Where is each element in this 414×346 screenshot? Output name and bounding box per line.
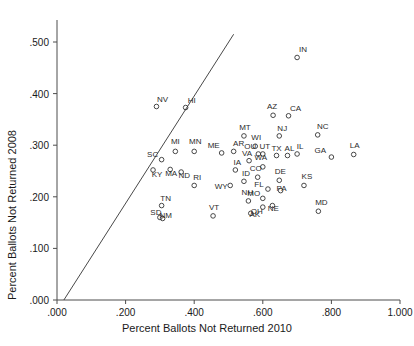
data-point-marker [233,168,238,173]
data-point: KY [151,168,163,179]
data-point: IN [295,45,308,59]
data-point-label: MD [315,198,328,207]
y-tick-label: .300 [30,140,50,151]
data-point-label: CO [250,164,262,173]
data-point-group: NVHIINAZCANCMTNJWIMNMISCMEARUTOUTXALILGA… [147,45,360,220]
data-point-label: WY [215,182,229,191]
y-tick-label: .100 [30,243,50,254]
data-point: HI [183,96,195,110]
data-point-marker [211,214,216,219]
data-point-marker [159,157,164,162]
data-point-marker [302,183,307,188]
plot-canvas: .000.200.400.600.8001.000 .000.100.200.3… [0,0,414,346]
data-point: NJ [277,124,287,138]
x-axis-title: Percent Ballots Not Returned 2010 [0,322,414,334]
data-point-label: KY [152,170,163,179]
data-point-label: FL [254,180,264,189]
data-point: TX [271,144,282,158]
data-point-label: ID [242,169,250,178]
x-tick-group: .000.200.400.600.8001.000 [47,300,413,318]
data-point-label: ND [178,171,190,180]
data-point-label: LA [350,141,360,150]
data-point-marker [228,183,233,188]
data-point: AL [285,144,295,158]
data-point: IA [233,158,242,172]
data-point: LA [350,141,360,156]
data-point-marker [316,209,321,214]
data-point-label: IN [299,45,307,54]
data-point-marker [329,155,334,160]
y-axis-title-text: Percent Ballots Not Returned 2008 [6,130,18,300]
y-tick-label: .500 [30,37,50,48]
data-point-label: MT [239,123,251,132]
data-point-label: AL [285,144,295,153]
data-point-marker [286,113,291,118]
data-point: RI [192,173,201,187]
data-point: AZ [267,102,277,117]
data-point-label: NE [268,204,279,213]
data-point: ID [242,169,251,183]
data-point: MN [189,137,202,153]
data-point-marker [285,153,290,158]
data-point-label: AZ [267,102,277,111]
data-point-marker [351,152,356,157]
data-point-label: MI [171,137,180,146]
data-point: WY [215,182,233,191]
data-point: MA [165,167,178,178]
data-point-label: RI [193,173,201,182]
x-tick-label: .400 [184,307,204,318]
data-point-label: NH [242,188,254,197]
data-point-label: TN [160,194,171,203]
data-point: NE [268,203,279,212]
data-point-marker [295,55,300,60]
data-point: KS [302,172,313,187]
axes [57,20,400,300]
reference-line-group [64,34,234,300]
data-point-marker [255,175,260,180]
data-point-label: ME [208,141,220,150]
data-point-label: KS [302,172,313,181]
x-tick-label: 1.000 [387,307,412,318]
data-point-marker [173,149,178,154]
forty-five-degree-reference-line [64,34,234,300]
data-point: TN [159,194,171,208]
data-point-marker [277,178,282,183]
data-point-label: VA [242,149,253,158]
data-point: VA [242,149,253,163]
data-point: AK [248,210,260,219]
x-tick-label: .600 [253,307,273,318]
data-point: NM [159,211,172,220]
x-tick-label: .000 [47,307,67,318]
data-point-marker [277,134,282,139]
data-point-label: TX [271,144,282,153]
x-tick-label: .800 [322,307,342,318]
data-point-label: NV [157,95,169,104]
data-point-label: DE [275,167,286,176]
data-point-marker [192,183,197,188]
data-point-label: NJ [277,124,287,133]
data-point: GA [315,146,334,159]
x-axis-title-text: Percent Ballots Not Returned 2010 [122,322,292,334]
data-point-label: NC [317,122,329,131]
data-point-marker [159,203,164,208]
x-tick-label: .200 [116,307,136,318]
data-point-marker [192,149,197,154]
data-point-marker [247,158,252,163]
data-point-label: NM [159,211,172,220]
y-tick-group: .000.100.200.300.400.500 [30,37,57,306]
data-point-label: IL [297,142,304,151]
data-point-marker [274,153,279,158]
y-tick-label: .000 [30,295,50,306]
data-point: MI [171,137,180,153]
data-point-marker [242,179,247,184]
data-point-marker [315,133,320,138]
data-point: SC [147,150,164,162]
data-point-marker [261,196,266,201]
data-point: DE [275,167,286,182]
data-point-label: VT [209,203,219,212]
data-point: NH [242,188,254,203]
y-axis-title: Percent Ballots Not Returned 2008 [6,130,18,300]
data-point-label: AR [233,139,244,148]
data-point-label: WA [255,153,268,162]
y-tick-label: .200 [30,192,50,203]
